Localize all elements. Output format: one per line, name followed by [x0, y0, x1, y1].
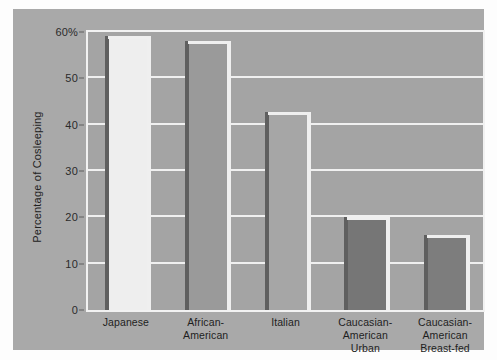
chart-panel: Percentage of Cosleeping 0102030405060% … — [13, 9, 484, 350]
bar-highlight-right-0 — [147, 36, 151, 310]
bar-highlight-right-4 — [466, 235, 470, 310]
x-label-line-4-2: Breast-fed — [405, 342, 485, 355]
plot-inner — [88, 32, 483, 310]
y-tick-mark-30 — [79, 171, 84, 172]
y-tick-label-0: 0 — [72, 304, 78, 316]
bar-shadow-3 — [344, 217, 348, 310]
x-label-line-0-0: Japanese — [86, 316, 166, 329]
bar-3 — [348, 220, 386, 310]
y-tick-mark-50 — [79, 78, 84, 79]
y-tick-mark-0 — [79, 310, 84, 311]
bar-highlight-right-3 — [386, 217, 390, 310]
bar-highlight-top-3 — [347, 217, 390, 220]
bar-1 — [189, 44, 227, 310]
bar-shadow-2 — [265, 112, 269, 310]
bar-body-4 — [428, 238, 466, 310]
y-tick-label-20: 20 — [65, 211, 78, 223]
bar-highlight-top-0 — [108, 36, 151, 39]
bar-highlight-top-4 — [427, 235, 470, 238]
bar-body-3 — [348, 220, 386, 310]
bar-shadow-4 — [424, 235, 428, 310]
x-label-line-3-2: Urban — [325, 342, 405, 355]
x-label-line-2-0: Italian — [246, 316, 326, 329]
y-tick-label-10: 10 — [65, 258, 78, 270]
y-tick-mark-60 — [79, 32, 84, 33]
bar-body-0 — [109, 39, 147, 310]
x-label-4: Caucasian-AmericanBreast-fed — [405, 316, 485, 355]
x-label-1: African-American — [166, 316, 246, 342]
x-label-line-4-0: Caucasian- — [405, 316, 485, 329]
x-label-0: Japanese — [86, 316, 166, 329]
bar-body-1 — [189, 44, 227, 310]
x-label-line-1-0: African-American — [166, 316, 246, 342]
y-axis-title: Percentage of Cosleeping — [31, 57, 43, 297]
x-label-line-3-0: Caucasian- — [325, 316, 405, 329]
y-tick-mark-40 — [79, 124, 84, 125]
y-tick-label-30: 30 — [65, 165, 78, 177]
chart-screenshot: Percentage of Cosleeping 0102030405060% … — [0, 0, 497, 360]
bar-shadow-0 — [105, 36, 109, 310]
bar-2 — [269, 115, 307, 310]
y-tick-label-50: 50 — [65, 72, 78, 84]
bar-highlight-right-2 — [307, 112, 311, 310]
y-tick-mark-10 — [79, 263, 84, 264]
plot-area — [86, 30, 485, 312]
y-tick-label-60: 60% — [55, 26, 78, 38]
bar-highlight-right-1 — [227, 41, 231, 310]
x-label-line-3-1: American — [325, 329, 405, 342]
y-tick-mark-20 — [79, 217, 84, 218]
x-label-line-4-1: American — [405, 329, 485, 342]
bar-highlight-top-2 — [268, 112, 311, 115]
x-axis-labels: JapaneseAfrican-AmericanItalianCaucasian… — [86, 316, 485, 360]
bar-shadow-1 — [185, 41, 189, 310]
bar-highlight-top-1 — [188, 41, 231, 44]
y-tick-label-40: 40 — [65, 119, 78, 131]
x-label-3: Caucasian-AmericanUrban — [325, 316, 405, 355]
bar-4 — [428, 238, 466, 310]
x-label-2: Italian — [246, 316, 326, 329]
bar-0 — [109, 39, 147, 310]
y-axis: Percentage of Cosleeping 0102030405060% — [13, 9, 86, 333]
bar-body-2 — [269, 115, 307, 310]
